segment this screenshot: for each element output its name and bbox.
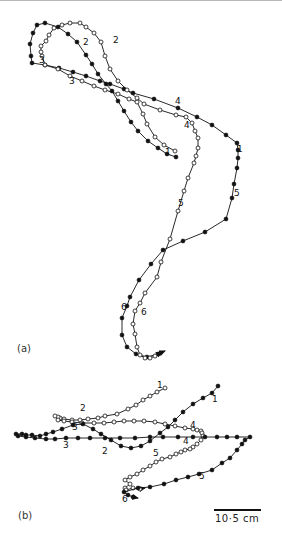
open-point-marker	[56, 67, 60, 71]
filled-point-marker	[224, 133, 228, 137]
open-point-marker	[39, 44, 43, 48]
filled-point-marker	[161, 435, 165, 439]
filled-point-marker	[131, 495, 135, 499]
open-point-marker	[186, 176, 190, 180]
open-point-marker	[125, 88, 129, 92]
open-point-marker	[155, 390, 159, 394]
filled-point-marker	[195, 115, 199, 119]
filled-point-marker	[81, 422, 85, 426]
panel-b-trajectories: 11223344556	[14, 380, 252, 504]
filled-point-marker	[98, 79, 102, 83]
filled-point-marker	[248, 435, 252, 439]
open-point-marker	[148, 356, 152, 360]
filled-point-marker	[243, 438, 247, 442]
filled-point-marker	[203, 230, 207, 234]
open-point-marker	[78, 21, 82, 25]
filled-point-marker	[133, 436, 137, 440]
filled-point-marker	[152, 97, 156, 101]
sequence-number-label: 4	[183, 436, 189, 446]
filled-point-marker	[235, 166, 239, 170]
filled-point-marker	[76, 436, 80, 440]
sequence-number-label: 2	[83, 37, 89, 47]
open-point-marker	[128, 482, 132, 486]
filled-point-marker	[181, 239, 185, 243]
filled-point-marker	[174, 155, 178, 159]
sequence-number-label: 4	[184, 120, 190, 130]
filled-point-marker	[31, 31, 35, 35]
filled-point-marker	[84, 74, 88, 78]
open-point-marker	[182, 189, 186, 193]
open-point-marker	[154, 460, 158, 464]
open-point-marker	[196, 136, 200, 140]
filled-point-marker	[176, 106, 180, 110]
filled-point-marker	[99, 432, 103, 436]
open-point-marker	[103, 88, 107, 92]
open-point-marker	[188, 447, 192, 451]
open-point-marker	[173, 149, 177, 153]
open-point-marker	[199, 438, 203, 442]
filled-point-marker	[53, 437, 57, 441]
open-point-marker	[192, 161, 196, 165]
filled-point-marker	[137, 278, 141, 282]
open-point-marker	[193, 129, 197, 133]
open-point-marker	[131, 322, 135, 326]
open-point-marker	[133, 309, 137, 313]
open-point-marker	[126, 407, 130, 411]
open-point-marker	[53, 414, 57, 418]
open-point-marker	[160, 457, 164, 461]
open-point-marker	[141, 398, 145, 402]
open-point-marker	[159, 260, 163, 264]
filled-point-marker	[66, 32, 70, 36]
open-point-marker	[62, 419, 66, 423]
scale-bar-label: 10·5 cm	[215, 513, 259, 524]
filled-point-marker	[216, 384, 220, 388]
sequence-number-label: 6	[121, 302, 127, 312]
filled-point-marker	[139, 444, 143, 448]
filled-point-marker	[148, 485, 152, 489]
filled-point-marker	[108, 82, 112, 86]
filled-point-marker	[158, 431, 162, 435]
filled-point-marker	[44, 437, 48, 441]
open-point-marker	[112, 420, 116, 424]
scale-bar	[214, 509, 261, 511]
filled-point-marker	[75, 40, 79, 44]
open-point-marker	[184, 115, 188, 119]
open-point-marker	[148, 394, 152, 398]
open-point-marker	[173, 424, 177, 428]
filled-point-marker	[88, 436, 92, 440]
filled-point-marker	[104, 82, 108, 86]
filled-point-marker	[29, 54, 33, 58]
sequence-number-label: 5	[199, 471, 205, 481]
open-point-marker	[183, 426, 187, 430]
open-point-marker	[108, 67, 112, 71]
sequence-number-label: 2	[102, 446, 108, 456]
filled-point-marker	[90, 62, 94, 66]
filled-point-marker	[136, 486, 140, 490]
open-point-marker	[44, 39, 48, 43]
filled-point-marker	[118, 436, 122, 440]
sequence-number-label: 2	[80, 403, 86, 413]
open-point-marker	[116, 92, 120, 96]
filled-point-marker	[236, 156, 240, 160]
filled-point-marker	[129, 446, 133, 450]
panel-b-label: (b)	[18, 510, 32, 521]
open-point-marker	[174, 113, 178, 117]
sequence-number-label: 4	[190, 420, 196, 430]
filled-point-marker	[43, 21, 47, 25]
trajectory-filled	[30, 23, 238, 357]
trajectory-open	[41, 23, 198, 358]
filled-point-marker	[71, 70, 75, 74]
sequence-number-label: 5	[234, 188, 240, 198]
filled-point-marker	[96, 72, 100, 76]
open-point-marker	[103, 414, 107, 418]
open-point-marker	[128, 475, 132, 479]
filled-point-marker	[28, 42, 32, 46]
filled-point-marker	[20, 432, 24, 436]
filled-point-marker	[215, 435, 219, 439]
open-point-marker	[135, 96, 139, 100]
open-point-marker	[183, 448, 187, 452]
panel-a-trajectories: 112233445566	[28, 21, 243, 360]
filled-point-marker	[235, 435, 239, 439]
open-point-marker	[134, 403, 138, 407]
filled-point-marker	[220, 461, 224, 465]
